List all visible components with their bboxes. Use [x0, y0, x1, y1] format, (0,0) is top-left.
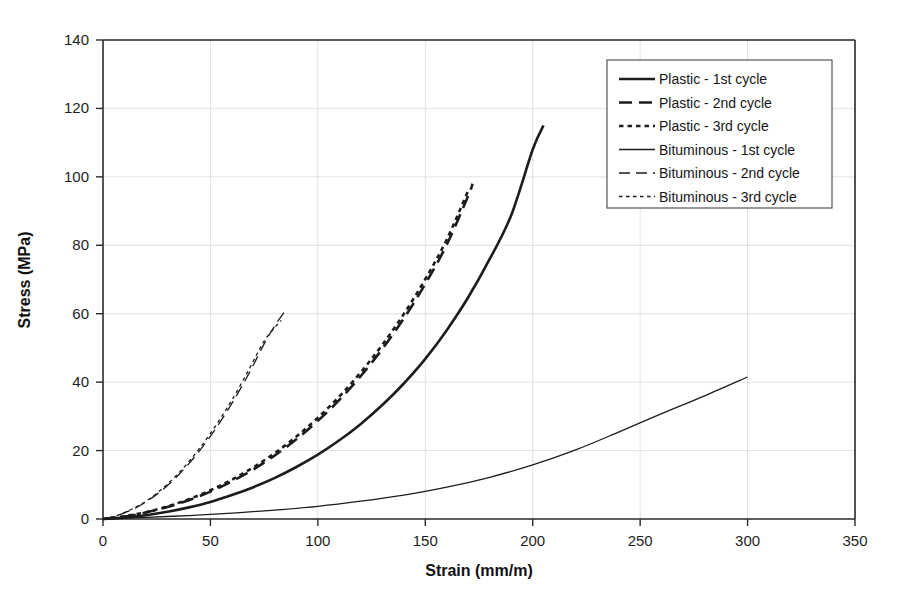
legend-label-5: Bituminous - 2nd cycle — [659, 165, 800, 181]
legend-label-6: Bituminous - 3rd cycle — [659, 189, 797, 205]
legend-label-3: Plastic - 3rd cycle — [659, 118, 769, 134]
x-axis-title: Strain (mm/m) — [425, 562, 533, 579]
legend-label-2: Plastic - 2nd cycle — [659, 95, 772, 111]
y-tick-label: 80 — [72, 236, 89, 253]
legend-label-4: Bituminous - 1st cycle — [659, 142, 795, 158]
x-tick-label: 200 — [520, 532, 545, 549]
y-tick-label: 140 — [64, 31, 89, 48]
y-tick-label: 20 — [72, 442, 89, 459]
y-tick-label: 100 — [64, 168, 89, 185]
chart-canvas: 050100150200250300350 020406080100120140… — [0, 0, 902, 612]
legend-label-1: Plastic - 1st cycle — [659, 71, 767, 87]
x-tick-label: 350 — [842, 532, 867, 549]
x-tick-label: 50 — [202, 532, 219, 549]
x-tick-label: 300 — [735, 532, 760, 549]
x-tick-label: 250 — [628, 532, 653, 549]
x-tick-label: 150 — [413, 532, 438, 549]
x-tick-label: 0 — [99, 532, 107, 549]
y-tick-label: 120 — [64, 99, 89, 116]
chart-legend: Plastic - 1st cyclePlastic - 2nd cyclePl… — [607, 60, 832, 208]
y-tick-label: 0 — [81, 510, 89, 527]
y-tick-label: 40 — [72, 373, 89, 390]
stress-strain-chart: 050100150200250300350 020406080100120140… — [0, 0, 902, 612]
y-axis-title: Stress (MPa) — [16, 232, 33, 329]
y-tick-label: 60 — [72, 305, 89, 322]
x-tick-label: 100 — [305, 532, 330, 549]
